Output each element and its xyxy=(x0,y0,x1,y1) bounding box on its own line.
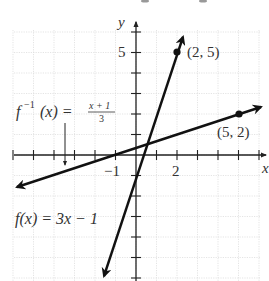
f-label: f(x) = 3x − 1 xyxy=(15,210,98,228)
f-inverse-label-arg: (x) = xyxy=(40,103,73,121)
f-point-label: (2, 5) xyxy=(187,44,220,61)
f-inverse-label-sup: −1 xyxy=(24,99,35,110)
f-inverse-label-denominator: 3 xyxy=(99,113,104,124)
f-point-2-5 xyxy=(173,48,180,55)
f-inverse-label: f −1 (x) = x + 1 3 xyxy=(16,99,115,124)
function-graph: y x 5 −1 2 (2, 5) (5, 2) f −1 (x) = x + … xyxy=(0,0,269,281)
f-inverse-label-numerator: x + 1 xyxy=(88,100,110,111)
f-inverse-point-5-2 xyxy=(235,110,242,117)
x-axis-label: x xyxy=(261,160,269,176)
x-tick-label-neg1: −1 xyxy=(104,163,120,179)
f-inverse-point-label: (5, 2) xyxy=(217,124,250,141)
f-inverse-label-f: f xyxy=(16,103,23,121)
y-axis-label: y xyxy=(116,14,125,30)
clipped-title-remnant xyxy=(141,0,207,3)
y-tick-label-5: 5 xyxy=(118,44,126,60)
x-tick-label-2: 2 xyxy=(172,163,180,179)
